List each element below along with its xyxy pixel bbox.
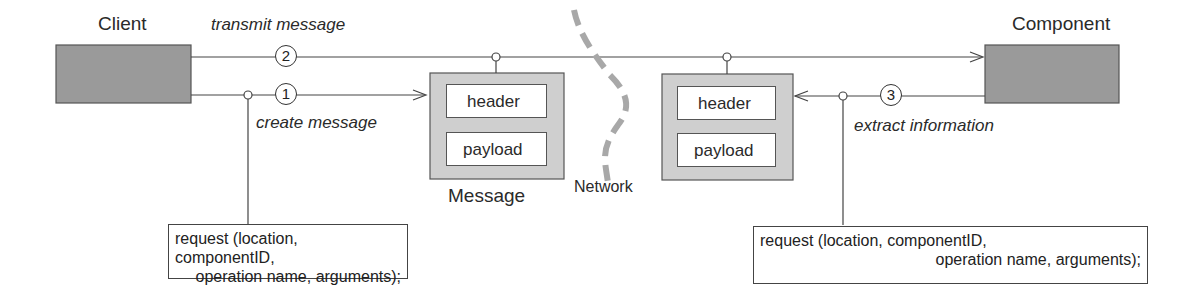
network-label: Network <box>574 179 633 195</box>
request-right-box: request (location, componentID, operatio… <box>753 226 1148 284</box>
step-1-label: create message <box>256 114 377 131</box>
network-boundary <box>574 10 626 183</box>
step-3-label: extract information <box>854 117 994 134</box>
junction-left-message <box>492 53 500 61</box>
client-label: Client <box>98 14 147 33</box>
step-3-badge: 3 <box>880 84 902 106</box>
request-left-box: request (location, componentID, operatio… <box>168 224 408 279</box>
step-2-badge: 2 <box>275 45 297 67</box>
message-left-payload-field: payload <box>446 132 547 166</box>
component-block <box>985 45 1119 103</box>
junction-left-request <box>244 91 252 99</box>
client-block <box>56 45 191 103</box>
junction-right-request <box>839 92 847 100</box>
component-label: Component <box>1012 14 1110 33</box>
message-right-payload-field: payload <box>677 133 776 167</box>
step-2-label: transmit message <box>211 16 345 33</box>
message-caption: Message <box>448 186 525 205</box>
step-1-badge: 1 <box>275 83 297 105</box>
message-left-header-field: header <box>446 84 547 118</box>
message-right-header-field: header <box>677 86 776 120</box>
junction-right-message <box>723 53 731 61</box>
